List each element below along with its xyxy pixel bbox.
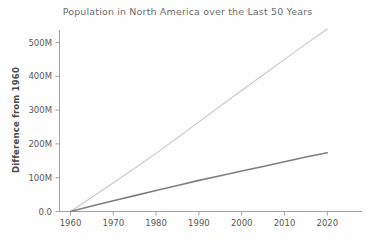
- y-tick-label: 100M: [28, 173, 52, 183]
- x-tick-label: 2010: [274, 218, 296, 228]
- x-tick-label: 1970: [102, 218, 124, 228]
- y-tick-label: 0.0: [38, 207, 52, 217]
- y-axis-ticks: [56, 43, 60, 212]
- y-axis-tick-labels: 500M 400M 300M 200M 100M 0.0: [28, 38, 52, 217]
- plot-area: 500M 400M 300M 200M 100M 0.0 1960 1970 1…: [0, 0, 375, 248]
- x-tick-label: 2020: [316, 218, 338, 228]
- x-tick-label: 1990: [188, 218, 210, 228]
- x-tick-label: 1960: [60, 218, 82, 228]
- y-tick-label: 200M: [28, 139, 52, 149]
- chart-container: Population in North America over the Las…: [0, 0, 375, 248]
- y-tick-label: 400M: [28, 71, 52, 81]
- series-line-dark-series: [71, 153, 328, 212]
- x-axis-tick-labels: 1960 1970 1980 1990 2000 2010 2020: [60, 218, 338, 228]
- data-series-group: [71, 29, 328, 212]
- x-tick-label: 2000: [231, 218, 253, 228]
- x-tick-label: 1980: [145, 218, 167, 228]
- x-axis-ticks: [71, 212, 328, 216]
- y-tick-label: 500M: [28, 38, 52, 48]
- y-tick-label: 300M: [28, 105, 52, 115]
- series-line-light-series: [71, 29, 328, 212]
